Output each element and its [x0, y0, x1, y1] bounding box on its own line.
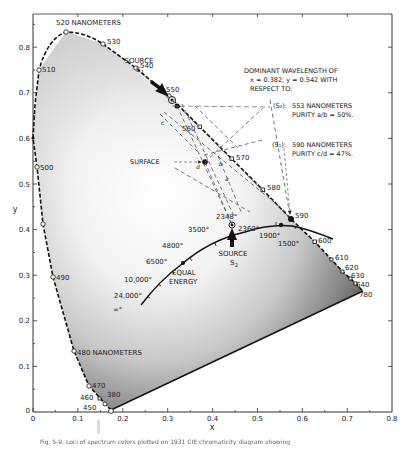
- equal-energy-point: [181, 261, 185, 265]
- svg-text:(S₂):: (S₂):: [273, 102, 287, 110]
- svg-text:1500°: 1500°: [278, 240, 299, 248]
- svg-text:SOURCE: SOURCE: [125, 57, 154, 65]
- svg-text:6500°: 6500°: [146, 258, 167, 266]
- svg-text:2360°: 2360°: [238, 225, 259, 233]
- point-1900-on-locus: [279, 223, 283, 227]
- svg-text:620: 620: [345, 264, 358, 272]
- svg-text:0.4: 0.4: [19, 226, 31, 234]
- equal-energy-label: EQUAL ENERGY: [169, 269, 198, 286]
- svg-text:0.8: 0.8: [19, 44, 30, 52]
- cie-chromaticity-chart: 0 0.1 0.2 0.3 0.4 0.5 0.6 0.7 0.8 0 0.1 …: [0, 0, 404, 449]
- svg-text:570: 570: [236, 154, 249, 162]
- svg-text:0.2: 0.2: [19, 317, 30, 325]
- svg-text:510: 510: [42, 66, 55, 74]
- scan-artifact: [97, 420, 100, 434]
- svg-text:590: 590: [295, 212, 308, 220]
- svg-text:590 NANOMETERS: 590 NANOMETERS: [292, 141, 352, 149]
- svg-text:640: 640: [356, 281, 369, 289]
- svg-text:530: 530: [107, 38, 120, 46]
- svg-text:0.6: 0.6: [19, 135, 31, 143]
- svg-text:480 NANOMETERS: 480 NANOMETERS: [77, 349, 142, 357]
- svg-text:EQUAL: EQUAL: [172, 269, 196, 277]
- svg-text:a: a: [225, 175, 229, 182]
- svg-text:0.7: 0.7: [19, 89, 30, 97]
- svg-text:0.3: 0.3: [19, 272, 30, 280]
- svg-text:550: 550: [166, 86, 179, 94]
- svg-text:DOMINANT WAVELENGTH OF: DOMINANT WAVELENGTH OF: [244, 67, 338, 75]
- svg-text:SOURCE: SOURCE: [219, 250, 248, 258]
- svg-text:x = 0.382, y = 0.542 WITH: x = 0.382, y = 0.542 WITH: [250, 76, 338, 84]
- svg-text:580: 580: [267, 184, 280, 192]
- svg-text:520 NANOMETERS: 520 NANOMETERS: [56, 19, 121, 27]
- svg-text:PURITY c/d = 47%.: PURITY c/d = 47%.: [292, 150, 353, 158]
- svg-text:24,000°: 24,000°: [114, 292, 142, 300]
- svg-text:610: 610: [335, 254, 348, 262]
- svg-text:0.1: 0.1: [72, 415, 83, 423]
- svg-text:0.8: 0.8: [386, 415, 397, 423]
- svg-text:(S₁):: (S₁):: [272, 141, 286, 149]
- y-tick-labels: 0 0.1 0.2 0.3 0.4 0.5 0.6 0.7 0.8: [19, 44, 31, 416]
- x-tick-labels: 0 0.1 0.2 0.3 0.4 0.5 0.6 0.7 0.8: [31, 415, 398, 423]
- svg-text:PURITY a/b = 50%.: PURITY a/b = 50%.: [292, 111, 354, 119]
- svg-text:10,000°: 10,000°: [124, 276, 152, 284]
- svg-text:0.1: 0.1: [19, 363, 30, 371]
- svg-text:450: 450: [83, 404, 96, 412]
- s1-leader-line: [284, 148, 290, 214]
- source-s2-point: [229, 222, 235, 228]
- svg-text:490: 490: [56, 274, 69, 282]
- svg-text:380: 380: [107, 391, 120, 399]
- svg-text:0.2: 0.2: [117, 415, 128, 423]
- svg-text:0.6: 0.6: [297, 415, 309, 423]
- svg-text:630: 630: [351, 272, 364, 280]
- svg-text:RESPECT TO:: RESPECT TO:: [250, 85, 293, 93]
- svg-text:0: 0: [26, 407, 30, 415]
- svg-text:500: 500: [40, 164, 53, 172]
- svg-text:0.3: 0.3: [162, 415, 173, 423]
- svg-text:d: d: [196, 163, 200, 170]
- svg-text:4800°: 4800°: [162, 242, 183, 250]
- svg-text:470: 470: [92, 382, 105, 390]
- svg-text:1: 1: [141, 69, 144, 75]
- svg-text:1900°: 1900°: [259, 232, 280, 240]
- svg-text:0.5: 0.5: [19, 181, 30, 189]
- svg-text:2: 2: [235, 262, 238, 268]
- figure-caption: Fig. 5-9. Loci of spectrum colors plotte…: [40, 438, 400, 445]
- svg-text:b: b: [219, 160, 223, 167]
- dominant-wavelength-annotation: DOMINANT WAVELENGTH OF x = 0.382, y = 0.…: [244, 67, 354, 158]
- svg-text:460: 460: [80, 394, 93, 402]
- svg-text:0.7: 0.7: [342, 415, 353, 423]
- s2-leader-line: [172, 106, 270, 107]
- svg-text:3500°: 3500°: [188, 226, 209, 234]
- svg-text:ENERGY: ENERGY: [169, 278, 198, 286]
- x-axis-label: x: [210, 423, 215, 432]
- svg-text:0: 0: [31, 415, 35, 423]
- svg-text:0.5: 0.5: [252, 415, 263, 423]
- surface-label: SURFACE: [130, 158, 160, 166]
- y-axis-label: y: [13, 205, 18, 214]
- svg-text:553 NANOMETERS: 553 NANOMETERS: [292, 102, 352, 110]
- svg-text:0.4: 0.4: [207, 415, 219, 423]
- svg-text:780: 780: [359, 291, 372, 299]
- locus-point-600nm-y: [31, 136, 34, 139]
- svg-text:∞°: ∞°: [113, 306, 122, 314]
